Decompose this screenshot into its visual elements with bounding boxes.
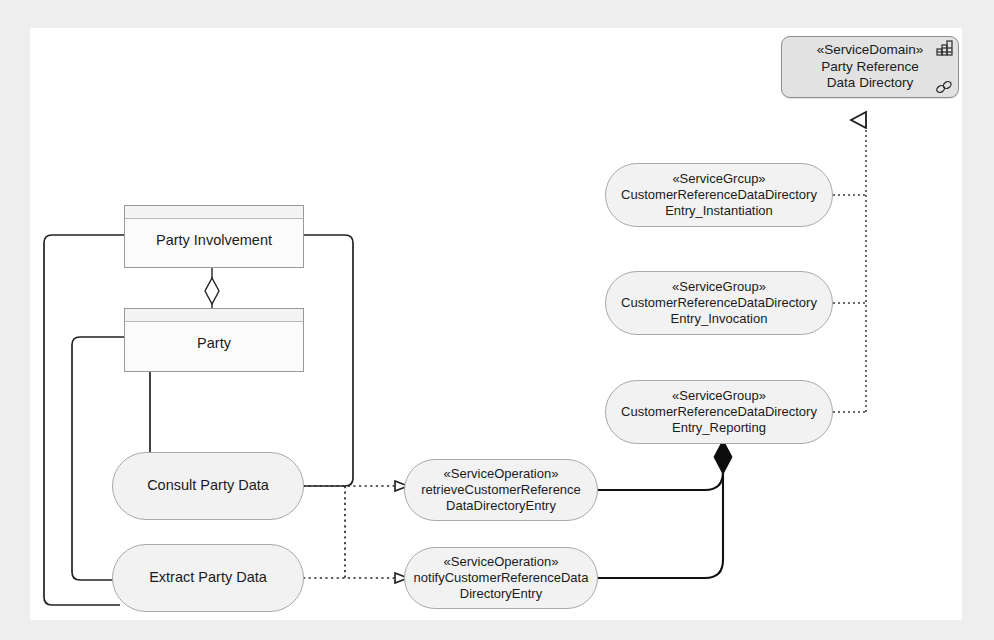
service-group-invocation[interactable]: «ServiceGroup» CustomerReferenceDataDire…: [605, 271, 833, 335]
activity-extract-party-data-label: Extract Party Data: [149, 569, 267, 587]
service-group-name-line1: CustomerReferenceDataDirectory: [621, 295, 817, 311]
class-header-strip: [125, 206, 303, 219]
service-group-name-line2: Entry_Instantiation: [665, 203, 773, 219]
service-operation-name-line1: notifyCustomerReferenceData: [414, 570, 589, 586]
service-group-instantiation[interactable]: «ServiceGrcup» CustomerReferenceDataDire…: [605, 163, 833, 227]
service-group-stereotype: «ServiceGroup»: [672, 388, 766, 404]
service-group-stereotype: «ServiceGroup»: [672, 279, 766, 295]
service-operation-name-line2: DataDirectoryEntry: [446, 498, 556, 514]
activity-consult-party-data[interactable]: Consult Party Data: [112, 452, 304, 520]
class-party-involvement[interactable]: Party Involvement: [124, 205, 304, 268]
class-party-involvement-label: Party Involvement: [156, 232, 272, 249]
class-party[interactable]: Party: [124, 308, 304, 372]
service-group-name-line2: Entry_Reporting: [672, 420, 766, 436]
service-operation-name-line1: retrieveCustomerReference: [421, 482, 581, 498]
service-group-name-line2: Entry_Invocation: [671, 311, 768, 327]
activity-extract-party-data[interactable]: Extract Party Data: [112, 544, 304, 612]
grid-icon: [936, 40, 954, 56]
service-group-reporting[interactable]: «ServiceGroup» CustomerReferenceDataDire…: [605, 380, 833, 444]
class-header-strip: [125, 309, 303, 322]
service-operation-stereotype: «ServiceOperation»: [444, 466, 559, 482]
link-icon: [935, 80, 953, 94]
service-group-name-line1: CustomerReferenceDataDirectory: [621, 404, 817, 420]
service-domain-name-line2: Data Directory: [827, 75, 913, 92]
diagram-stage: Party Involvement (hollow diamond) -----…: [0, 0, 994, 640]
service-operation-notify[interactable]: «ServiceOperation» notifyCustomerReferen…: [404, 547, 598, 609]
service-group-name-line1: CustomerReferenceDataDirectory: [621, 187, 817, 203]
class-party-label: Party: [197, 335, 231, 352]
service-domain-node[interactable]: «ServiceDomain» Party Reference Data Dir…: [781, 36, 959, 98]
activity-consult-party-data-label: Consult Party Data: [147, 477, 269, 495]
service-operation-name-line2: DirectoryEntry: [460, 586, 542, 602]
service-domain-stereotype: «ServiceDomain»: [817, 42, 924, 59]
diagram-title: Party Reference Data Directory service r…: [0, 0, 1, 1]
service-group-stereotype: «ServiceGrcup»: [672, 171, 765, 187]
service-operation-stereotype: «ServiceOperation»: [444, 554, 559, 570]
service-operation-retrieve[interactable]: «ServiceOperation» retrieveCustomerRefer…: [404, 459, 598, 521]
service-domain-name-line1: Party Reference: [821, 59, 919, 76]
